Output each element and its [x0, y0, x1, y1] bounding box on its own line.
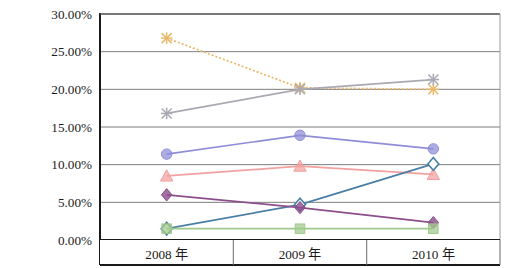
y-tick-label: 0.00% [58, 233, 92, 248]
y-tick-label: 25.00% [51, 44, 92, 59]
data-point-marker [294, 84, 306, 96]
data-point-marker [161, 32, 173, 44]
y-tick-label: 20.00% [51, 82, 92, 97]
data-point-marker [161, 149, 171, 159]
data-point-marker [162, 224, 172, 234]
data-point-marker [295, 224, 305, 234]
y-tick-label: 15.00% [51, 120, 92, 135]
y-tick-label: 30.00% [51, 7, 92, 22]
data-point-marker [295, 130, 305, 140]
data-point-marker [161, 108, 173, 120]
y-tick-label: 5.00% [58, 195, 92, 210]
y-tick-label-group: 0.00%5.00%10.00%15.00%20.00%25.00%30.00% [51, 7, 92, 248]
x-tick-label: 2010 年 [412, 247, 455, 262]
chart-canvas: 0.00%5.00%10.00%15.00%20.00%25.00%30.00%… [0, 0, 521, 268]
data-point-marker [428, 144, 438, 154]
y-tick-label: 10.00% [51, 157, 92, 172]
data-point-marker [429, 224, 439, 234]
data-point-marker [428, 84, 440, 96]
line-chart: 0.00%5.00%10.00%15.00%20.00%25.00%30.00%… [0, 0, 521, 268]
x-tick-label: 2009 年 [279, 247, 322, 262]
x-tick-label: 2008 年 [145, 247, 188, 262]
data-point-marker [428, 74, 440, 86]
